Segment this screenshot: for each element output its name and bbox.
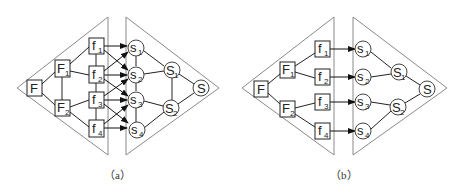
- svg-text:f: f: [92, 92, 96, 107]
- function-node-f4: f 4: [315, 123, 330, 140]
- svg-text:3: 3: [138, 100, 143, 109]
- svg-text:s: s: [357, 123, 364, 138]
- function-node-F2: F 2: [55, 100, 70, 117]
- function-node-f1: f 1: [315, 41, 330, 58]
- svg-text:s: s: [131, 122, 138, 137]
- svg-text:S: S: [423, 82, 432, 97]
- svg-text:1: 1: [98, 46, 103, 55]
- svg-text:4: 4: [365, 131, 370, 140]
- figure: F F 1 F 2 f 1 f 2 f 3 f 4: [0, 0, 455, 193]
- function-node-f2: f 2: [315, 69, 330, 86]
- structure-node-S: S: [419, 81, 435, 97]
- svg-text:F: F: [57, 100, 65, 115]
- panel-a: F F 1 F 2 f 1 f 2 f 3 f 4: [17, 17, 219, 181]
- svg-text:f: f: [92, 67, 96, 82]
- structure-node-s2: s 2: [355, 69, 371, 86]
- panel-a-caption: （a）: [104, 169, 131, 181]
- structure-node-s1: s 1: [128, 40, 144, 57]
- svg-text:3: 3: [324, 102, 329, 111]
- svg-text:1: 1: [290, 70, 295, 79]
- svg-text:f: f: [318, 69, 322, 84]
- svg-text:F: F: [282, 62, 290, 77]
- svg-text:2: 2: [324, 77, 329, 86]
- svg-text:2: 2: [400, 108, 405, 117]
- svg-text:S: S: [197, 81, 206, 96]
- panel-b: F F 1 F 2 f 1 f 2 f 3 f 4: [242, 17, 447, 181]
- svg-text:f: f: [92, 38, 96, 53]
- svg-text:f: f: [318, 41, 322, 56]
- svg-text:F: F: [57, 61, 65, 76]
- svg-text:3: 3: [98, 100, 103, 109]
- function-node-F2: F 2: [280, 101, 295, 118]
- svg-text:2: 2: [290, 109, 295, 118]
- svg-text:2: 2: [65, 108, 70, 117]
- function-node-f1: f 1: [89, 38, 104, 55]
- structure-node-s4: s 4: [355, 123, 371, 140]
- svg-text:2: 2: [365, 77, 370, 86]
- svg-text:2: 2: [138, 75, 143, 84]
- svg-text:1: 1: [174, 71, 179, 80]
- structure-node-S2: S 2: [390, 99, 406, 117]
- svg-text:s: s: [357, 41, 364, 56]
- structure-node-s3: s 3: [128, 92, 144, 109]
- svg-text:4: 4: [139, 130, 144, 139]
- svg-text:1: 1: [65, 69, 70, 78]
- structure-node-s2: s 2: [128, 67, 144, 84]
- function-node-F: F: [27, 80, 42, 96]
- svg-text:4: 4: [98, 129, 103, 138]
- svg-text:f: f: [318, 123, 322, 138]
- function-node-f3: f 3: [89, 92, 104, 109]
- svg-text:f: f: [318, 94, 322, 109]
- structure-node-S1: S 1: [391, 64, 407, 82]
- svg-text:F: F: [257, 82, 265, 97]
- svg-text:2: 2: [98, 75, 103, 84]
- svg-text:4: 4: [324, 131, 329, 140]
- function-node-F1: F 1: [55, 60, 70, 78]
- svg-text:s: s: [357, 69, 364, 84]
- function-node-f2: f 2: [89, 66, 104, 84]
- function-node-F1: F 1: [280, 62, 295, 79]
- function-node-f4: f 4: [89, 120, 104, 138]
- svg-text:f: f: [92, 121, 96, 136]
- structure-node-S1: S 1: [164, 62, 180, 80]
- structure-node-S: S: [193, 80, 209, 96]
- svg-text:s: s: [130, 67, 137, 82]
- structure-node-s3: s 3: [355, 94, 371, 111]
- svg-text:1: 1: [324, 49, 329, 58]
- panel-b-caption: （b）: [330, 169, 358, 181]
- function-node-f3: f 3: [315, 94, 330, 111]
- structure-node-s4: s 4: [129, 122, 145, 139]
- svg-text:1: 1: [138, 48, 143, 57]
- svg-text:3: 3: [365, 102, 370, 111]
- svg-text:1: 1: [401, 73, 406, 82]
- svg-text:s: s: [130, 40, 137, 55]
- svg-text:F: F: [30, 81, 38, 96]
- structure-node-S2: S 2: [163, 100, 179, 118]
- svg-text:F: F: [282, 101, 290, 116]
- svg-text:s: s: [357, 94, 364, 109]
- svg-text:2: 2: [173, 109, 178, 118]
- structure-tree-edges: [371, 52, 420, 129]
- svg-text:1: 1: [365, 49, 370, 58]
- svg-text:s: s: [130, 92, 137, 107]
- function-node-F: F: [254, 81, 268, 97]
- structure-node-s1: s 1: [355, 41, 371, 58]
